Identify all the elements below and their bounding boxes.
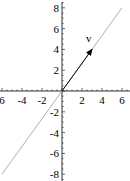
- x-tick-label: 2: [79, 94, 85, 106]
- x-tick-label: 6: [119, 94, 125, 106]
- x-tick-label: 4: [99, 94, 105, 106]
- vector-label: v: [86, 32, 92, 44]
- vector-v-arrow: [62, 49, 92, 91]
- x-tick-label: -2: [37, 94, 46, 106]
- y-tick-label: 2: [54, 64, 60, 76]
- y-tick-label: 4: [54, 43, 60, 55]
- x-tick-label: -4: [17, 94, 27, 106]
- y-tick-label: -4: [50, 127, 60, 139]
- x-tick-label: 6: [0, 94, 5, 106]
- vector-plot: 6-4-22468642-2-4-6-8 v: [0, 0, 130, 181]
- y-tick-label: 6: [54, 23, 60, 35]
- axes: [0, 2, 130, 181]
- y-tick-label: 8: [54, 2, 60, 14]
- y-tick-label: -2: [50, 106, 59, 118]
- y-tick-label: -6: [50, 147, 60, 159]
- y-tick-label: -8: [50, 168, 60, 180]
